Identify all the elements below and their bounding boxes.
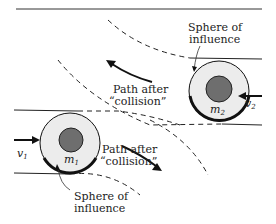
label-sphere-top-2: influence — [189, 33, 240, 46]
path-arrow-upper — [106, 60, 152, 82]
m2-upper-path-line — [190, 58, 262, 59]
m1-upper-path-line — [14, 110, 78, 111]
m2-lower-path-line — [222, 124, 262, 125]
mass-m1-core — [59, 128, 83, 152]
label-v2: v2 — [245, 97, 256, 111]
collision-diagram: Sphere of influence Path after “collisio… — [0, 0, 276, 224]
dashed-path-upper-outer — [108, 20, 190, 58]
label-v1: v1 — [17, 147, 28, 161]
velocity-arrow-v1 — [14, 136, 40, 144]
label-sphere-bottom-2: influence — [74, 202, 125, 215]
mass-m2-core — [206, 76, 232, 102]
label-path-top-2: “collision” — [109, 95, 166, 108]
label-path-bottom-2: “collision” — [100, 155, 157, 168]
dashed-path-m1-top — [78, 111, 180, 125]
